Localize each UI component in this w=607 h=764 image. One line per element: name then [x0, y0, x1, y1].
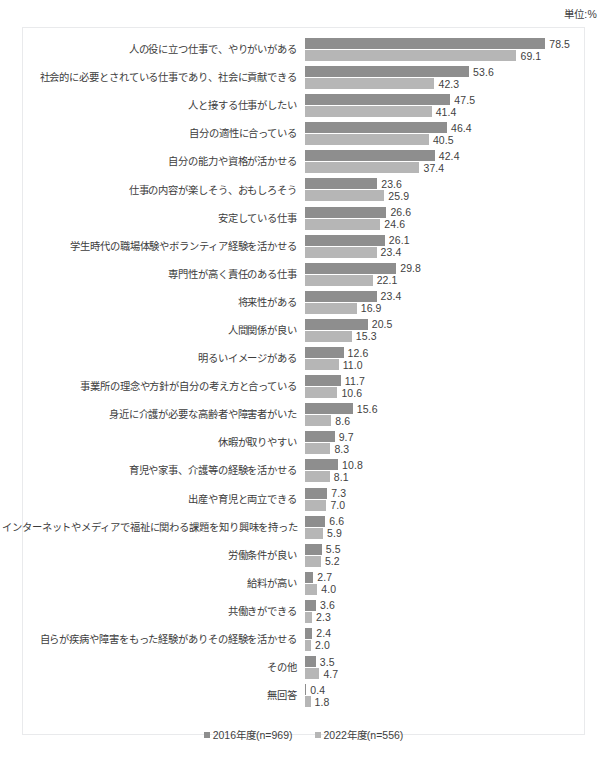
- bar-group: 20.515.3: [305, 317, 607, 345]
- category-label: 仕事の内容が楽しそう、おもしろそう: [2, 185, 297, 197]
- chart-row: 出産や育児と両立できる7.37.0: [0, 486, 607, 514]
- chart-container: 単位:% 人の役に立つ仕事で、やりがいがある78.569.1社会的に必要とされて…: [0, 0, 607, 764]
- bar-value-label: 4.7: [319, 668, 338, 680]
- bar-value-label: 42.3: [434, 78, 459, 90]
- bar-rect: [305, 600, 316, 611]
- category-label: 人の役に立つ仕事で、やりがいがある: [2, 44, 297, 56]
- category-label: その他: [2, 662, 297, 674]
- bar-group: 3.62.3: [305, 598, 607, 626]
- bar-group: 15.68.6: [305, 401, 607, 429]
- bar-value-label: 10.6: [337, 387, 362, 399]
- bar-rect: [305, 134, 429, 145]
- bar-value-label: 5.2: [321, 555, 340, 567]
- bar-rect: [305, 375, 341, 386]
- bar-value-label: 23.6: [377, 178, 402, 190]
- chart-row: 明るいイメージがある12.611.0: [0, 345, 607, 373]
- category-label: 人と接する仕事がしたい: [2, 100, 297, 112]
- bar-rect: [305, 544, 322, 555]
- bar-group: 5.55.2: [305, 542, 607, 570]
- bar-group: 2.74.0: [305, 570, 607, 598]
- bar-value-label: 2.0: [311, 639, 330, 651]
- bar-rect: [305, 528, 323, 539]
- legend-label: 2016年度(n=969): [213, 727, 293, 742]
- bar-rows: 人の役に立つ仕事で、やりがいがある78.569.1社会的に必要とされている仕事で…: [0, 36, 607, 710]
- bar-rect: [305, 500, 326, 511]
- category-label: 給料が高い: [2, 578, 297, 590]
- legend-label: 2022年度(n=556): [324, 727, 404, 742]
- bar-rect: [305, 431, 335, 442]
- bar-rect: [305, 459, 338, 470]
- bar-value-label: 8.1: [330, 471, 349, 483]
- bar-rect: [305, 584, 317, 595]
- category-label: 自分の能力や資格が活かせる: [2, 157, 297, 169]
- bar-value-label: 15.3: [352, 330, 377, 342]
- bar-rect: [305, 190, 384, 201]
- bar-rect: [305, 359, 339, 370]
- chart-row: 社会的に必要とされている仕事であり、社会に貢献できる53.642.3: [0, 64, 607, 92]
- bar-value-label: 40.5: [429, 134, 454, 146]
- bar-group: 10.88.1: [305, 457, 607, 485]
- bar-rect: [305, 66, 469, 77]
- bar-value-label: 26.6: [386, 206, 411, 218]
- bar-rect: [305, 263, 396, 274]
- bar-value-label: 15.6: [353, 403, 378, 415]
- bar-group: 6.65.9: [305, 514, 607, 542]
- bar-group: 26.123.4: [305, 233, 607, 261]
- bar-value-label: 7.3: [327, 487, 346, 499]
- bar-rect: [305, 668, 319, 679]
- legend-item-2[interactable]: 2022年度(n=556): [315, 727, 404, 742]
- bar-value-label: 5.5: [322, 543, 341, 555]
- category-label: 労働条件が良い: [2, 550, 297, 562]
- bar-value-label: 47.5: [450, 94, 475, 106]
- chart-row: 休暇が取りやすい9.78.3: [0, 429, 607, 457]
- bar-rect: [305, 612, 312, 623]
- unit-note: 単位:%: [564, 6, 597, 21]
- bar-value-label: 7.0: [326, 499, 345, 511]
- category-label: 明るいイメージがある: [2, 353, 297, 365]
- chart-row: インターネットやメディアで福祉に関わる課題を知り興味を持った6.65.9: [0, 514, 607, 542]
- chart-row: 人と接する仕事がしたい47.541.4: [0, 92, 607, 120]
- bar-rect: [305, 319, 368, 330]
- bar-group: 3.54.7: [305, 654, 607, 682]
- bar-group: 78.569.1: [305, 36, 607, 64]
- bar-value-label: 53.6: [469, 66, 494, 78]
- bar-rect: [305, 516, 325, 527]
- category-label: 身近に介護が必要な高齢者や障害者がいた: [2, 409, 297, 421]
- bar-rect: [305, 78, 434, 89]
- bar-value-label: 3.6: [316, 599, 335, 611]
- bar-value-label: 4.0: [317, 583, 336, 595]
- bar-value-label: 46.4: [447, 122, 472, 134]
- bar-group: 0.41.8: [305, 682, 607, 710]
- bar-rect: [305, 303, 357, 314]
- chart-row: 事業所の理念や方針が自分の考え方と合っている11.710.6: [0, 373, 607, 401]
- chart-row: 学生時代の職場体験やボランティア経験を活かせる26.123.4: [0, 233, 607, 261]
- chart-row: 仕事の内容が楽しそう、おもしろそう23.625.9: [0, 176, 607, 204]
- bar-group: 53.642.3: [305, 64, 607, 92]
- bar-rect: [305, 556, 321, 567]
- category-label: 事業所の理念や方針が自分の考え方と合っている: [2, 381, 297, 393]
- category-label: 専門性が高く責任のある仕事: [2, 269, 297, 281]
- legend-item-1[interactable]: 2016年度(n=969): [204, 727, 293, 742]
- bar-value-label: 29.8: [396, 262, 421, 274]
- chart-row: 人の役に立つ仕事で、やりがいがある78.569.1: [0, 36, 607, 64]
- bar-group: 46.440.5: [305, 120, 607, 148]
- bar-rect: [305, 415, 331, 426]
- chart-row: 自分の能力や資格が活かせる42.437.4: [0, 148, 607, 176]
- bar-value-label: 0.4: [306, 684, 325, 696]
- bar-rect: [305, 247, 377, 258]
- bar-group: 29.822.1: [305, 261, 607, 289]
- bar-value-label: 37.4: [419, 162, 444, 174]
- bar-value-label: 6.6: [325, 515, 344, 527]
- category-label: 育児や家事、介護等の経験を活かせる: [2, 466, 297, 478]
- chart-row: 育児や家事、介護等の経験を活かせる10.88.1: [0, 457, 607, 485]
- bar-value-label: 2.3: [312, 611, 331, 623]
- bar-rect: [305, 106, 432, 117]
- bar-rect: [305, 488, 327, 499]
- bar-rect: [305, 347, 344, 358]
- category-label: 社会的に必要とされている仕事であり、社会に貢献できる: [2, 72, 297, 84]
- bar-group: 23.625.9: [305, 176, 607, 204]
- chart-row: 労働条件が良い5.55.2: [0, 542, 607, 570]
- bar-group: 7.37.0: [305, 486, 607, 514]
- chart-row: 共働きができる3.62.3: [0, 598, 607, 626]
- bar-value-label: 24.6: [380, 218, 405, 230]
